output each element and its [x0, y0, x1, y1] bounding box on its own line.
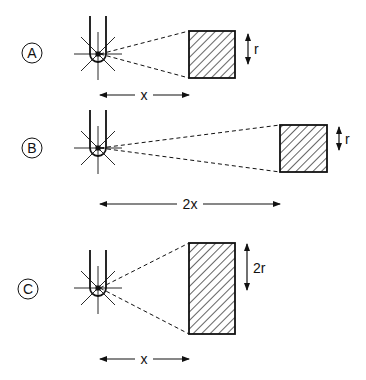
light-source-icon	[74, 110, 122, 174]
projection-line-top	[100, 125, 280, 148]
projection-line-bottom	[100, 288, 189, 334]
light-source-icon	[74, 250, 122, 314]
height-label: r	[345, 131, 350, 147]
inverse-square-diagram: ArxBr2xC2rx	[0, 0, 366, 380]
panel-c: C2rx	[18, 243, 266, 367]
target-area	[189, 243, 235, 334]
source-point	[96, 146, 101, 151]
badge-letter: C	[23, 281, 33, 297]
projection-line-top	[100, 243, 189, 288]
light-source-icon	[74, 16, 122, 80]
source-point	[96, 52, 101, 57]
panel-badge: A	[22, 43, 42, 63]
badge-letter: B	[27, 140, 36, 156]
target-area	[189, 31, 235, 78]
source-point	[96, 286, 101, 291]
distance-label: x	[141, 351, 148, 367]
badge-letter: A	[27, 45, 37, 61]
panel-b: Br2x	[22, 110, 350, 212]
panel-a: Arx	[22, 16, 259, 103]
panel-badge: C	[18, 279, 38, 299]
height-label: r	[254, 41, 259, 57]
distance-label: 2x	[183, 196, 198, 212]
height-label: 2r	[253, 260, 266, 276]
projection-line-bottom	[100, 54, 189, 78]
target-area	[280, 125, 327, 172]
projection-line-top	[100, 31, 189, 54]
distance-label: x	[141, 87, 148, 103]
projection-line-bottom	[100, 148, 280, 172]
panel-badge: B	[22, 138, 42, 158]
